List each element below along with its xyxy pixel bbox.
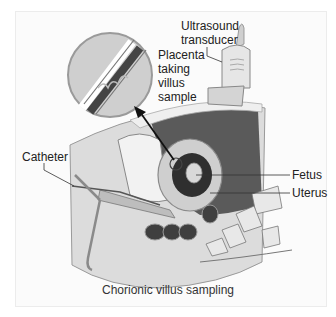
catheter-leader xyxy=(44,163,74,186)
label-catheter: Catheter xyxy=(22,150,68,164)
label-placenta-line4: sample xyxy=(158,90,197,104)
label-transducer-line1: Ultrasound xyxy=(181,19,239,33)
fetus xyxy=(186,163,202,183)
label-placenta-line1: Placenta xyxy=(158,48,205,62)
transducer-leader xyxy=(207,47,222,62)
label-fetus: Fetus xyxy=(292,168,322,182)
label-placenta-line2: taking xyxy=(158,62,190,76)
label-transducer-line2: transducer xyxy=(181,33,238,47)
label-placenta-line3: villus xyxy=(158,76,185,90)
figure-caption: Chorionic villus sampling xyxy=(0,283,336,297)
label-uterus: Uterus xyxy=(292,186,327,200)
magnified-inset xyxy=(68,33,152,117)
